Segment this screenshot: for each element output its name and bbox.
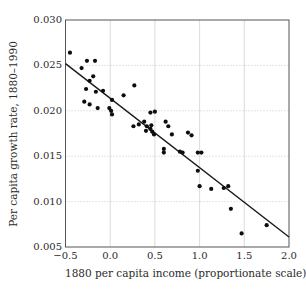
scatter-point — [109, 109, 113, 113]
scatter-point — [222, 186, 226, 190]
scatter-point — [162, 147, 166, 151]
scatter-point — [132, 83, 136, 87]
scatter-point — [152, 132, 156, 136]
scatter-point — [162, 150, 166, 154]
scatter-point — [189, 133, 193, 137]
y-tick-label: 0.010 — [18, 196, 62, 208]
scatter-point — [226, 184, 230, 188]
scatter-point — [166, 124, 170, 128]
scatter-point — [229, 207, 233, 211]
scatter-point — [186, 130, 190, 134]
scatter-point — [164, 120, 168, 124]
scatter-point — [91, 74, 95, 78]
scatter-figure: Per capita growth rate, 1880–1990 1880 p… — [0, 0, 306, 291]
scatter-point — [82, 100, 86, 104]
scatter-point — [94, 90, 98, 94]
scatter-point — [148, 111, 152, 115]
x-tick-label: 0.0 — [93, 250, 127, 262]
y-tick-label: 0.015 — [18, 150, 62, 162]
scatter-point — [68, 51, 72, 55]
x-tick-label: −0.5 — [49, 250, 83, 262]
scatter-point — [131, 124, 135, 128]
scatter-point — [181, 150, 185, 154]
scatter-point — [145, 124, 149, 128]
scatter-point — [84, 87, 88, 91]
scatter-point — [196, 169, 200, 173]
x-tick-label: 0.5 — [138, 250, 172, 262]
x-tick-label: 2.0 — [272, 250, 306, 262]
scatter-point — [96, 106, 100, 110]
scatter-point — [137, 122, 141, 126]
scatter-point — [153, 110, 157, 114]
scatter-point — [199, 150, 203, 154]
scatter-point — [209, 187, 213, 191]
scatter-point — [88, 102, 92, 106]
scatter-point — [122, 93, 126, 97]
scatter-point — [149, 123, 153, 127]
x-tick-label: 1.0 — [183, 250, 217, 262]
scatter-point — [142, 120, 146, 124]
scatter-point — [265, 223, 269, 227]
plot-frame — [66, 20, 290, 247]
y-axis-title: Per capita growth rate, 1880–1990 — [6, 21, 20, 248]
y-tick-label: 0.020 — [18, 105, 62, 117]
scatter-point — [85, 59, 89, 63]
y-tick-label: 0.025 — [18, 59, 62, 71]
scatter-point — [110, 112, 114, 116]
scatter-point — [101, 89, 105, 93]
x-axis-title: 1880 per capita income (proportionate sc… — [65, 266, 289, 280]
scatter-point — [110, 98, 114, 102]
scatter-point — [88, 79, 92, 83]
scatter-point — [198, 184, 202, 188]
x-tick-label: 1.5 — [227, 250, 261, 262]
y-tick-label: 0.030 — [18, 14, 62, 26]
scatter-point — [170, 132, 174, 136]
scatter-point — [144, 129, 148, 133]
scatter-point — [79, 66, 83, 70]
trend-line — [66, 64, 290, 237]
scatter-point — [93, 59, 97, 63]
scatter-point — [196, 150, 200, 154]
scatter-point — [240, 231, 244, 235]
